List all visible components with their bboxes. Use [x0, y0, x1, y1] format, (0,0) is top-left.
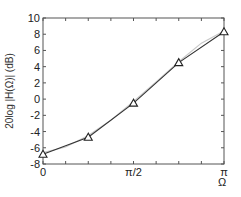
- x-tick-label: π/2: [125, 166, 142, 178]
- reference-curve: [43, 31, 224, 153]
- markers-layer: [39, 28, 228, 157]
- reference-curve-layer: [43, 31, 224, 153]
- y-axis-label: 20log |H(Ω)| (dB): [4, 53, 15, 128]
- y-tick-label: -2: [30, 109, 40, 121]
- y-tick-label: -6: [30, 142, 40, 154]
- series-layer: [43, 32, 224, 154]
- plot-frame: [43, 18, 224, 164]
- y-tick-label: 8: [34, 28, 40, 40]
- x-tick-label: 0: [40, 166, 46, 178]
- y-tick-label: 2: [34, 77, 40, 89]
- y-tick-label: -4: [30, 126, 40, 138]
- ticks-layer: [43, 18, 224, 164]
- y-tick-label: -8: [30, 158, 40, 170]
- chart: 0π/2π1086420-2-4-6-8 20log |H(Ω)| (dB) Ω: [0, 0, 241, 197]
- x-axis-label: Ω: [218, 176, 226, 188]
- tick-labels-layer: 0π/2π1086420-2-4-6-8: [28, 12, 228, 178]
- y-tick-label: 4: [34, 61, 40, 73]
- y-tick-label: 0: [34, 93, 40, 105]
- data-point-marker: [220, 28, 228, 35]
- y-tick-label: 10: [28, 12, 40, 24]
- series-line: [43, 32, 224, 154]
- y-tick-label: 6: [34, 44, 40, 56]
